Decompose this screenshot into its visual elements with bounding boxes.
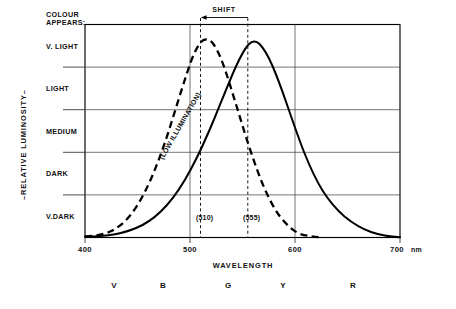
y-label-dark: DARK [46,169,68,178]
colour-appears-line2: APPEARS: [46,18,86,27]
colour-letter-r: R [350,281,356,290]
peak-label-555: (555) [243,214,260,222]
x-tick-label-400: 400 [78,245,92,254]
chart-svg: SHIFT (LOW ILLUMINATION) (510) (555) COL… [0,0,456,309]
peak-label-510: (510) [196,214,213,222]
y-axis-title-group: –RELATIVE LUMINOSITY– [19,89,28,200]
x-tick-label-500: 500 [183,245,197,254]
luminosity-chart-figure: SHIFT (LOW ILLUMINATION) (510) (555) COL… [0,0,456,309]
y-label-very-dark: V.DARK [46,212,75,221]
shift-label: SHIFT [212,6,236,13]
x-tick-label-600: 600 [288,245,302,254]
x-axis-title: WAVELENGTH [213,261,274,270]
y-label-light: LIGHT [46,84,69,93]
colour-letter-g: G [225,281,231,290]
y-axis-title: –RELATIVE LUMINOSITY– [19,89,28,200]
colour-letter-y: Y [280,281,286,290]
y-label-very-light: V. LIGHT [46,42,78,51]
x-axis-unit: nm [411,246,422,253]
y-label-medium: MEDIUM [46,127,77,136]
colour-letter-b: B [160,281,166,290]
colour-letter-v: V [111,281,117,290]
x-tick-label-700: 700 [390,245,404,254]
